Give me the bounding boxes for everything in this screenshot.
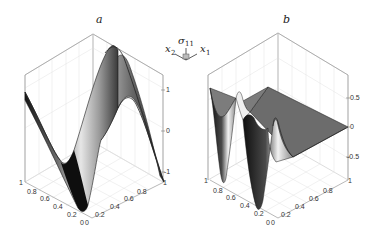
svg-text:0.6: 0.6 [40, 195, 50, 202]
a-ztick-0: 0 [166, 127, 170, 134]
svg-text:0.6: 0.6 [226, 194, 236, 201]
svg-text:0.2: 0.2 [67, 211, 77, 218]
panel-a-z-axis: 1 0 -1 [161, 86, 170, 175]
svg-text:0.8: 0.8 [213, 187, 223, 194]
svg-text:11: 11 [185, 40, 194, 48]
svg-text:0.6: 0.6 [309, 195, 319, 202]
a-ztick-1: 1 [166, 86, 170, 93]
b-ztick-0.5: 0.5 [350, 94, 360, 101]
svg-text:0.4: 0.4 [240, 202, 250, 209]
svg-text:0.2: 0.2 [281, 211, 291, 218]
svg-text:1: 1 [348, 177, 352, 184]
svg-text:0.2: 0.2 [95, 211, 105, 218]
figure-canvas: 1 0 -1 1 0.8 0.6 0.4 0.2 0 0 0.2 0.4 0.6… [0, 0, 380, 241]
svg-text:0: 0 [85, 219, 89, 226]
svg-text:2: 2 [171, 49, 175, 57]
svg-text:0.8: 0.8 [27, 188, 37, 195]
orientation-legend: σ 11 x 2 x 1 [165, 35, 210, 60]
svg-text:0.4: 0.4 [295, 203, 305, 210]
svg-text:0.8: 0.8 [137, 188, 147, 195]
panel-a-title: a [96, 13, 103, 26]
svg-text:1: 1 [204, 177, 208, 184]
svg-text:1: 1 [19, 179, 23, 186]
svg-text:0.6: 0.6 [124, 195, 134, 202]
svg-text:0: 0 [271, 219, 275, 226]
panel-b: 0.5 0 -0.5 1 0.8 0.6 0.4 0.2 0 0 0.2 0.4… [204, 13, 360, 226]
panel-a-x1-axis-ticks: 0 0.2 0.4 0.6 0.8 1 [85, 179, 167, 226]
panel-a: 1 0 -1 1 0.8 0.6 0.4 0.2 0 0 0.2 0.4 0.6… [19, 13, 170, 226]
svg-text:1: 1 [206, 49, 210, 57]
svg-text:0.4: 0.4 [53, 203, 63, 210]
svg-text:1: 1 [163, 179, 167, 186]
svg-text:0.4: 0.4 [110, 203, 120, 210]
b-ztick-neg0.5: -0.5 [347, 153, 359, 160]
svg-text:0: 0 [80, 219, 84, 226]
svg-text:0.2: 0.2 [254, 210, 264, 217]
panel-b-title: b [283, 13, 290, 26]
a-ztick-neg1: -1 [164, 168, 170, 175]
svg-text:0: 0 [266, 219, 270, 226]
b-ztick-0: 0 [350, 123, 354, 130]
svg-text:0.8: 0.8 [323, 187, 333, 194]
cube-icon [183, 54, 189, 59]
